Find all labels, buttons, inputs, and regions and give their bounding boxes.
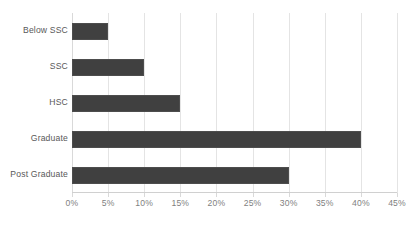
bar xyxy=(72,95,180,112)
tick-mark xyxy=(253,193,254,197)
category-label: HSC xyxy=(0,98,68,107)
category-label: Post Graduate xyxy=(0,170,68,179)
value-axis: 0%5%10%15%20%25%30%35%40%45% xyxy=(72,199,397,219)
value-tick-label: 35% xyxy=(305,199,345,208)
value-tick-label: 0% xyxy=(52,199,92,208)
gridline xyxy=(361,13,362,193)
value-tick-label: 10% xyxy=(124,199,164,208)
bar xyxy=(72,167,289,184)
category-label: Graduate xyxy=(0,134,68,143)
gridline xyxy=(325,13,326,193)
tick-mark xyxy=(289,193,290,197)
value-tick-label: 20% xyxy=(196,199,236,208)
bar xyxy=(72,59,144,76)
bar xyxy=(72,131,361,148)
value-tick-label: 30% xyxy=(269,199,309,208)
category-label: Below SSC xyxy=(0,26,68,35)
tick-mark xyxy=(180,193,181,197)
tick-mark xyxy=(325,193,326,197)
tick-mark xyxy=(144,193,145,197)
tick-mark xyxy=(397,193,398,197)
tick-mark xyxy=(72,193,73,197)
value-tick-label: 45% xyxy=(377,199,414,208)
category-label: SSC xyxy=(0,62,68,71)
plot-area xyxy=(72,13,397,193)
gridline xyxy=(289,13,290,193)
gridline xyxy=(397,13,398,193)
tick-mark xyxy=(108,193,109,197)
bar-chart: Below SSCSSCHSCGraduatePost Graduate 0%5… xyxy=(0,0,414,232)
value-tick-label: 40% xyxy=(341,199,381,208)
category-axis: Below SSCSSCHSCGraduatePost Graduate xyxy=(0,0,68,232)
tick-mark xyxy=(216,193,217,197)
bar xyxy=(72,23,108,40)
value-tick-label: 25% xyxy=(233,199,273,208)
tick-mark xyxy=(361,193,362,197)
value-tick-label: 5% xyxy=(88,199,128,208)
axis-baseline xyxy=(72,192,397,193)
value-tick-label: 15% xyxy=(160,199,200,208)
